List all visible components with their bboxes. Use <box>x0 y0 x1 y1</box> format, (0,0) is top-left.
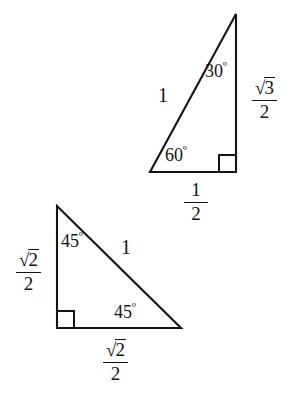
radical-icon: √2 <box>105 339 126 361</box>
angle-label-45-bottom: 45º <box>114 303 136 321</box>
angle-value-60: 60 <box>165 145 183 165</box>
base-label-1-over-2: 1 2 <box>184 180 208 225</box>
fraction-denominator: 2 <box>22 274 36 295</box>
angle-value-30: 30 <box>205 61 223 81</box>
right-angle-marker-icon <box>219 155 236 172</box>
angle-value-45: 45 <box>114 302 132 322</box>
hypotenuse-label-45-45-90: 1 <box>121 237 131 257</box>
degree-symbol-icon: º <box>79 229 83 243</box>
vertical-side-label-sqrt2-over-2: √2 2 <box>16 249 41 295</box>
fraction-sqrt3-over-2: √3 2 <box>252 77 277 123</box>
angle-label-45-top: 45º <box>61 232 83 250</box>
fraction-denominator: 2 <box>189 204 203 225</box>
degree-symbol-icon: º <box>183 143 187 157</box>
hypotenuse-label-30-60-90: 1 <box>158 85 168 105</box>
fraction-denominator: 2 <box>109 364 123 385</box>
vertical-side-label-sqrt3-over-2: √3 2 <box>252 77 277 123</box>
fraction-denominator: 2 <box>258 102 272 123</box>
fraction-sqrt2-over-2: √2 2 <box>103 339 128 385</box>
degree-symbol-icon: º <box>223 59 227 73</box>
fraction-sqrt2-over-2: √2 2 <box>16 249 41 295</box>
triangle-line-work <box>0 0 285 393</box>
right-angle-marker-icon <box>57 311 74 328</box>
angle-value-45: 45 <box>61 231 79 251</box>
radical-icon: √2 <box>18 249 39 271</box>
radical-icon: √3 <box>254 77 275 99</box>
fraction-numerator: √2 <box>16 249 41 271</box>
degree-symbol-icon: º <box>132 300 136 314</box>
fraction-1-over-2: 1 2 <box>184 180 208 225</box>
triangle-diagram: 1 30º 60º √3 2 1 2 45º 1 45º √2 2 <box>0 0 285 393</box>
fraction-numerator: √2 <box>103 339 128 361</box>
fraction-numerator: √3 <box>252 77 277 99</box>
angle-label-60: 60º <box>165 146 187 164</box>
angle-label-30: 30º <box>205 62 227 80</box>
fraction-numerator: 1 <box>189 180 203 201</box>
base-label-sqrt2-over-2: √2 2 <box>103 339 128 385</box>
